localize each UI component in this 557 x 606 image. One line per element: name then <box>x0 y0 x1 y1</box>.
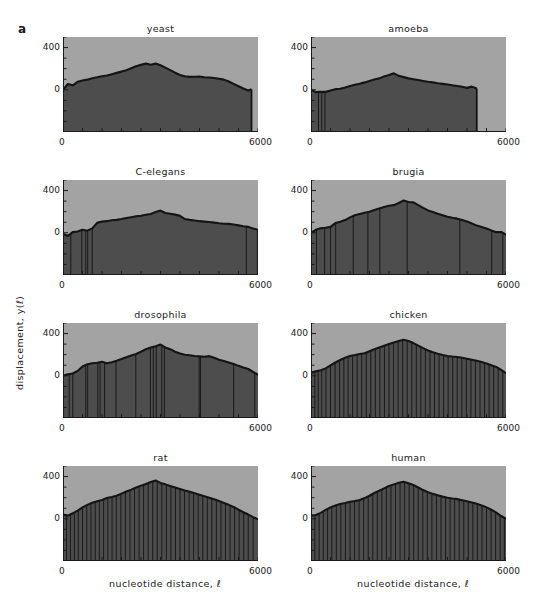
x-tick-label-0: 0 <box>59 423 65 433</box>
x-axis-label-right: nucleotide distance, ℓ <box>318 578 508 589</box>
plot-canvas-rat <box>63 466 258 561</box>
plot-title-rat: rat <box>63 452 258 463</box>
y-tick-label-0: 0 <box>302 370 308 380</box>
y-tick-label-400: 400 <box>291 328 308 338</box>
plot-title-human: human <box>311 452 506 463</box>
x-tick-label-6000: 6000 <box>497 566 520 576</box>
plot-canvas-yeast <box>63 37 258 132</box>
x-tick-label-0: 0 <box>307 137 313 147</box>
plot-panel-yeast: yeast400006000 <box>63 37 258 132</box>
x-tick-label-6000: 6000 <box>497 280 520 290</box>
plot-title-chicken: chicken <box>311 309 506 320</box>
y-tick-label-400: 400 <box>43 185 60 195</box>
plot-canvas-amoeba <box>311 37 506 132</box>
y-axis-label: displacement, y(ℓ) <box>14 296 25 390</box>
x-tick-label-0: 0 <box>59 280 65 290</box>
plot-title-drosophila: drosophila <box>63 309 258 320</box>
plot-panel-human: human400006000 <box>311 466 506 561</box>
plot-canvas-C-elegans <box>63 180 258 275</box>
plot-canvas-drosophila <box>63 323 258 418</box>
y-tick-label-400: 400 <box>43 42 60 52</box>
y-tick-label-400: 400 <box>291 42 308 52</box>
y-tick-label-0: 0 <box>54 84 60 94</box>
y-tick-label-0: 0 <box>54 370 60 380</box>
y-tick-label-0: 0 <box>302 84 308 94</box>
x-tick-label-0: 0 <box>307 280 313 290</box>
y-tick-label-0: 0 <box>54 513 60 523</box>
y-tick-label-400: 400 <box>43 328 60 338</box>
x-tick-label-6000: 6000 <box>497 423 520 433</box>
plot-canvas-human <box>311 466 506 561</box>
y-tick-label-400: 400 <box>43 471 60 481</box>
y-tick-label-0: 0 <box>54 227 60 237</box>
plot-panel-rat: rat400006000 <box>63 466 258 561</box>
plot-title-brugia: brugia <box>311 166 506 177</box>
x-tick-label-0: 0 <box>59 566 65 576</box>
figure-root: · · · · · · · a displacement, y(ℓ) nucle… <box>0 0 557 606</box>
y-tick-label-400: 400 <box>291 471 308 481</box>
y-tick-label-0: 0 <box>302 513 308 523</box>
plot-title-C-elegans: C-elegans <box>63 166 258 177</box>
plot-panel-brugia: brugia400006000 <box>311 180 506 275</box>
top-clipped-text: · · · · · · · <box>150 0 222 5</box>
plot-canvas-chicken <box>311 323 506 418</box>
x-tick-label-6000: 6000 <box>249 280 272 290</box>
x-axis-label-left: nucleotide distance, ℓ <box>70 578 260 589</box>
plot-panel-chicken: chicken400006000 <box>311 323 506 418</box>
plot-panel-C-elegans: C-elegans400006000 <box>63 180 258 275</box>
plot-panel-amoeba: amoeba400006000 <box>311 37 506 132</box>
plot-canvas-brugia <box>311 180 506 275</box>
panel-letter-a: a <box>18 22 26 36</box>
x-tick-label-0: 0 <box>59 137 65 147</box>
y-tick-label-400: 400 <box>291 185 308 195</box>
y-tick-label-0: 0 <box>302 227 308 237</box>
plot-title-amoeba: amoeba <box>311 23 506 34</box>
plot-title-yeast: yeast <box>63 23 258 34</box>
x-tick-label-6000: 6000 <box>249 137 272 147</box>
x-tick-label-6000: 6000 <box>249 566 272 576</box>
x-tick-label-6000: 6000 <box>249 423 272 433</box>
x-tick-label-6000: 6000 <box>497 137 520 147</box>
x-tick-label-0: 0 <box>307 566 313 576</box>
plot-panel-drosophila: drosophila400006000 <box>63 323 258 418</box>
x-tick-label-0: 0 <box>307 423 313 433</box>
